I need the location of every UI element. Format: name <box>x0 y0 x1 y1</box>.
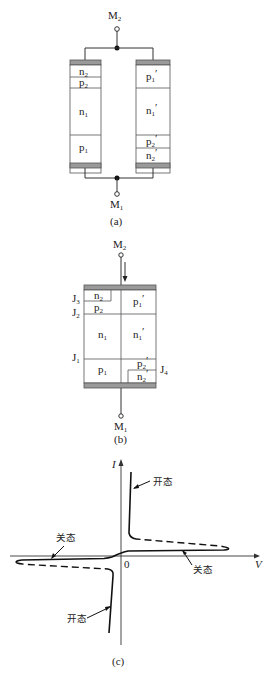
junction-j1-label: J1 <box>72 351 80 365</box>
terminal-m1-label-b: M1 <box>114 420 128 434</box>
wire-top <box>85 48 153 60</box>
terminal-m2-label: M2 <box>108 9 122 23</box>
terminal-m1-node <box>115 192 120 197</box>
label-on-state-reverse: 开态 <box>67 613 87 624</box>
caption-c: (c) <box>112 655 125 668</box>
figure-b: M2 n2 p2 n1 p1 p1′ n1′ p2′ n2′ J3 J2 J1 … <box>72 238 168 446</box>
terminal-m1-node-b <box>119 414 123 418</box>
figure-a: M2 n2 p2 n1 p1 p1′ n1′ p2′ <box>70 9 170 228</box>
junction-j3-label: J3 <box>72 292 80 306</box>
label-on-state-forward: 开态 <box>153 476 173 487</box>
junction-j2-label: J2 <box>72 306 80 320</box>
curve-on-state-reverse <box>108 569 113 633</box>
terminal-m1-label: M1 <box>110 198 124 212</box>
bottom-contact-right <box>136 163 170 168</box>
curve-negative-resistance-forward <box>136 539 228 548</box>
curve-negative-resistance-reverse <box>17 563 108 569</box>
figure-c-iv-chart: I V 0 开态 关态 关态 开态 (c) <box>10 458 263 668</box>
junction-j4-label: J4 <box>160 363 168 377</box>
caption-b: (b) <box>114 433 127 446</box>
terminal-m2-node <box>115 27 120 32</box>
terminal-m2-node-b <box>119 253 123 257</box>
y-axis-label: I <box>111 458 117 470</box>
label-off-state-reverse: 关态 <box>56 532 76 543</box>
top-contact-left <box>70 60 101 65</box>
curve-off-state-reverse <box>16 557 112 563</box>
curve-on-state-forward <box>129 472 136 539</box>
figure-canvas: M2 n2 p2 n1 p1 p1′ n1′ p2′ <box>0 0 272 678</box>
left-thyristor-stack: n2 p2 n1 p1 <box>70 60 101 173</box>
label-off-state-forward: 关态 <box>193 564 213 575</box>
y-axis-arrow-icon <box>119 459 124 466</box>
leader-arrow-icon <box>133 484 139 489</box>
caption-a: (a) <box>110 215 123 228</box>
right-thyristor-stack: p1′ n1′ p2′ n2′ <box>136 60 170 173</box>
terminal-m2-label-b: M2 <box>113 238 127 252</box>
current-arrow-icon <box>123 276 128 282</box>
bottom-contact-left <box>70 163 101 168</box>
x-axis-label: V <box>255 558 263 570</box>
origin-label: 0 <box>124 558 130 570</box>
top-contact-right <box>136 60 170 65</box>
